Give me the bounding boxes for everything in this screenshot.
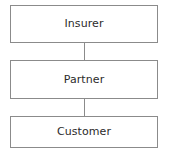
diagram-node-customer-label: Customer	[57, 126, 111, 138]
connector-insurer-partner	[84, 43, 85, 60]
diagram-node-insurer-label: Insurer	[64, 18, 103, 30]
connector-partner-customer	[84, 99, 85, 116]
diagram-node-partner-label: Partner	[64, 74, 105, 86]
diagram-node-partner[interactable]: Partner	[10, 60, 158, 99]
diagram-node-insurer[interactable]: Insurer	[10, 5, 158, 43]
diagram-canvas: Insurer Partner Customer	[0, 0, 169, 163]
diagram-node-customer[interactable]: Customer	[10, 116, 158, 148]
